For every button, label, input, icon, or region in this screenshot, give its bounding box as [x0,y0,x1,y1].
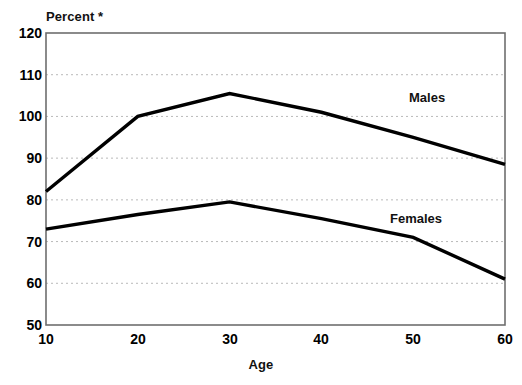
x-axis-title: Age [0,357,522,372]
x-tick-20: 20 [108,331,168,347]
y-axis-title: Percent * [46,9,103,24]
y-tick-90: 90 [0,150,42,166]
y-tick-110: 110 [0,67,42,83]
line-chart: Percent * Age 120 110 100 90 80 70 60 50… [0,0,522,385]
x-tick-40: 40 [291,331,351,347]
series-label-females: Females [390,211,442,226]
plot-background [46,33,505,325]
x-tick-60: 60 [475,331,522,347]
y-tick-100: 100 [0,108,42,124]
x-tick-30: 30 [200,331,260,347]
y-tick-120: 120 [0,25,42,41]
y-tick-80: 80 [0,192,42,208]
y-tick-60: 60 [0,275,42,291]
x-tick-50: 50 [383,331,443,347]
y-tick-70: 70 [0,234,42,250]
x-tick-10: 10 [16,331,76,347]
plot-canvas [0,0,522,385]
series-label-males: Males [409,90,445,105]
